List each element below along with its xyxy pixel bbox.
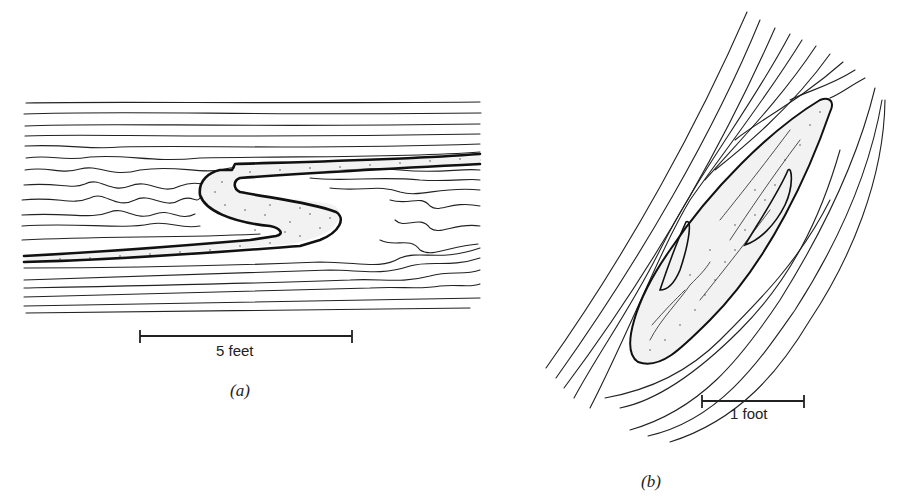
panel-a: 5 feet (a) — [0, 0, 500, 420]
panel-b: 1 foot (b) — [540, 0, 897, 498]
scale-label-a: 5 feet — [216, 342, 254, 359]
caption-b: (b) — [641, 472, 661, 492]
caption-a: (a) — [230, 381, 250, 401]
scale-label-b: 1 foot — [730, 405, 768, 422]
scale-bar-b — [540, 0, 897, 498]
